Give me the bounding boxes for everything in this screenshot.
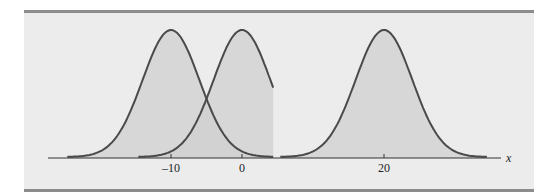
x-axis-label: x [505,151,512,165]
curves-group [67,30,487,158]
tick-label: 20 [378,161,390,175]
curve-fill-2 [280,30,487,158]
tick-label: –10 [161,161,180,175]
tick-label: 0 [239,161,245,175]
normal-curves-chart: –10020 x [0,0,555,195]
